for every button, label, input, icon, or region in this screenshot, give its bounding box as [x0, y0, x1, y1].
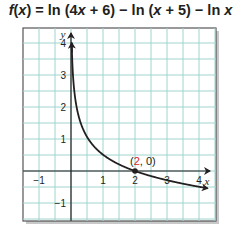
- y-tick-label: 3: [60, 70, 66, 81]
- x-tick-label: −1: [33, 175, 45, 186]
- x-tick-label: 2: [132, 175, 138, 186]
- graph: yx−11234−11234 (2, 0): [0, 0, 241, 232]
- y-tick-label: 2: [60, 102, 66, 113]
- y-tick-label: −1: [55, 198, 67, 209]
- point-label-rest: , 0): [140, 155, 156, 167]
- point-label: (2, 0): [130, 155, 156, 167]
- y-tick-label: 1: [60, 134, 66, 145]
- point-marker: [132, 168, 138, 174]
- y-tick-label: 4: [60, 38, 66, 49]
- x-tick-label: 4: [196, 175, 202, 186]
- x-tick-label: 1: [100, 175, 106, 186]
- x-axis-label: x: [204, 175, 210, 187]
